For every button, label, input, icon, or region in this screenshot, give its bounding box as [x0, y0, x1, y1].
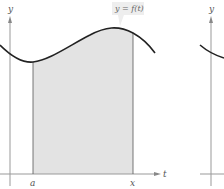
function-label-pointer — [118, 15, 124, 26]
t-axis-arrow-icon — [154, 172, 161, 176]
y-axis-label: y — [7, 4, 14, 14]
t-axis-label: t — [163, 169, 167, 179]
second-y-axis-arrow-icon — [209, 16, 213, 23]
y-axis-arrow-icon — [8, 16, 12, 23]
shaded-area — [33, 28, 133, 174]
upper-bound-label: x — [130, 178, 135, 188]
second-function-curve — [200, 45, 224, 58]
lower-bound-label: a — [30, 178, 35, 188]
second-y-axis-label: y — [208, 4, 215, 14]
function-label: y = f(t) — [114, 4, 144, 13]
area-under-curve-figure: y t a x y = f(t) y — [0, 0, 224, 189]
